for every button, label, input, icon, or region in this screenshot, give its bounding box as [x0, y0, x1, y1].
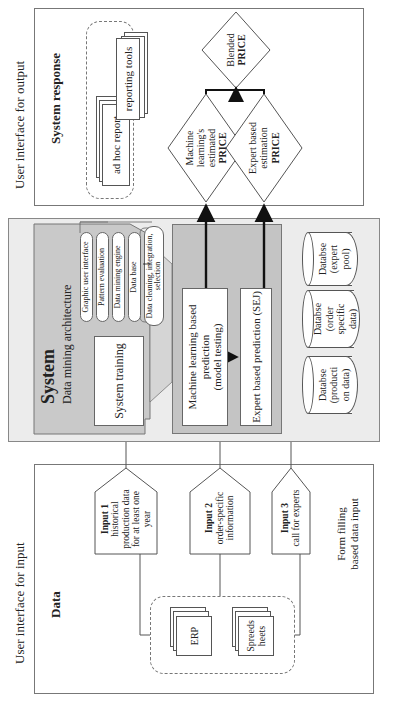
expert-price-line-1: Expert based [247, 122, 259, 174]
ml-price-line-1: Machine [184, 131, 195, 166]
price-flow [0, 0, 403, 704]
diagram-canvas: User interface for input Data ERP Spreed… [0, 0, 403, 704]
ml-price-bold: PRICE [217, 132, 228, 163]
expert-price-bold: PRICE [270, 132, 282, 163]
ml-price-line-3: estimated [206, 129, 217, 167]
expert-estimated-price[interactable]: Expert based estimation PRICE [242, 107, 286, 189]
blended-price-line-1: Blended [225, 33, 237, 66]
ml-price-line-2: learning's [195, 129, 206, 167]
blended-price-bold: PRICE [236, 34, 248, 65]
expert-price-line-2: estimation [258, 127, 270, 169]
blended-price[interactable]: Blended PRICE [218, 22, 254, 78]
ml-estimated-price[interactable]: Machine learning's estimated PRICE [180, 107, 232, 189]
